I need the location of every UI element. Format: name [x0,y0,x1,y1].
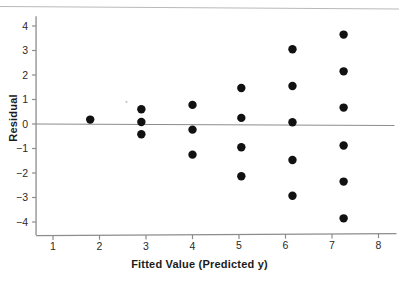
y-axis-tick-label: −2 [16,167,28,179]
x-axis-tick-label: 6 [283,239,289,251]
axis-tick-labels-group: −4−3−2−10123412345678 [16,20,382,253]
y-axis-tick-label: 1 [22,93,28,105]
x-axis-spine [36,234,396,236]
data-point [339,30,347,38]
data-point [188,150,196,158]
y-axis-tick-label: 3 [22,44,28,56]
x-axis-tick-label: 7 [329,239,335,251]
data-point [237,114,245,122]
data-point [339,67,347,75]
zero-reference-line [36,124,394,126]
y-axis-tick-label: 0 [22,118,28,130]
scan-smudge [125,101,127,103]
data-point [339,177,347,185]
data-point [237,172,245,180]
zero-line [36,124,394,126]
data-point [288,45,296,53]
data-point [86,115,94,123]
scatter-plot-canvas: −4−3−2−10123412345678 [0,0,399,281]
x-axis-tick-label: 2 [97,240,103,252]
x-axis-tick-label: 3 [143,240,149,252]
x-axis-tick-label: 1 [50,240,56,252]
x-axis-tick-label: 8 [376,239,382,251]
data-point [339,103,347,111]
data-point [137,130,145,138]
data-point [237,84,245,92]
x-axis-tick-label: 4 [190,240,196,252]
data-points-group [86,30,348,222]
data-point [288,192,296,200]
axis-ticks-group [32,26,378,240]
x-axis-label: Fitted Value (Predicted y) [0,258,399,270]
y-axis-tick-label: 2 [22,69,28,81]
y-axis-tick-label: −4 [16,216,28,228]
data-point [137,105,145,113]
data-point [188,101,196,109]
x-axis-tick-label: 5 [236,239,242,251]
scan-artifacts-group [125,101,127,103]
data-point [339,214,347,222]
data-point [137,118,145,126]
data-point [339,141,347,149]
data-point [288,156,296,164]
data-point [188,125,196,133]
data-point [237,143,245,151]
data-point [288,82,296,90]
y-axis-tick-label: −3 [16,191,28,203]
y-axis-label: Residual [7,88,19,148]
data-point [288,118,296,126]
residual-plot-figure: −4−3−2−10123412345678 Residual Fitted Va… [0,0,399,281]
y-axis-tick-label: 4 [22,20,28,32]
